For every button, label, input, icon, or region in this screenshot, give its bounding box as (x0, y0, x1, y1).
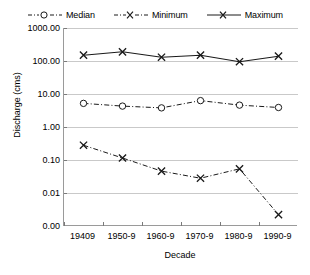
y-axis-tick-labels: 1000.00100.0010.001.000.100.010.00 (8, 28, 60, 226)
data-point-marker (80, 142, 87, 149)
legend-sample-median-icon (27, 9, 63, 21)
data-point-marker (119, 154, 126, 161)
data-point-marker (119, 103, 125, 109)
y-tick-label: 0.00 (12, 222, 60, 231)
y-tick-label: 1.00 (12, 123, 60, 132)
data-point-marker (80, 100, 86, 106)
y-tick-label: 1000.00 (12, 24, 60, 33)
x-tick-label: 1960-9 (139, 231, 183, 241)
legend-label-minimum: Minimum (152, 10, 188, 20)
series-maximum (80, 48, 282, 65)
x-axis-tick-labels: 194091950-91960-91970-91980-91990-9 (63, 231, 297, 245)
x-tick-label: 1990-9 (256, 231, 300, 241)
data-point-marker (158, 105, 164, 111)
legend-sample-maximum-icon (206, 9, 242, 21)
y-tick-label: 0.10 (12, 156, 60, 165)
series-minimum (80, 142, 282, 219)
data-series-layer (64, 28, 298, 226)
series-median (80, 97, 281, 111)
data-point-marker (236, 102, 242, 108)
data-point-marker (197, 97, 203, 103)
legend-label-maximum: Maximum (245, 10, 283, 20)
y-tick-label: 10.00 (12, 90, 60, 99)
legend-item-minimum: Minimum (113, 9, 188, 21)
legend-item-median: Median (27, 9, 95, 21)
data-point-marker (275, 104, 281, 110)
x-tick-label: 19409 (61, 231, 105, 241)
y-tick-label: 100.00 (12, 57, 60, 66)
plot-area (63, 28, 297, 226)
x-tick-label: 1950-9 (100, 231, 144, 241)
chart-legend: Median Minimum Maximum (0, 6, 310, 24)
discharge-by-decade-chart: Median Minimum Maximum Discharge (cms) 1… (0, 0, 310, 275)
x-tick-label: 1970-9 (178, 231, 222, 241)
legend-label-median: Median (66, 10, 95, 20)
data-point-marker (275, 211, 282, 218)
legend-sample-minimum-icon (113, 9, 149, 21)
y-tick-label: 0.01 (12, 189, 60, 198)
x-tick-label: 1980-9 (217, 231, 261, 241)
x-axis-title: Decade (63, 250, 297, 260)
data-point-marker (236, 165, 243, 172)
legend-item-maximum: Maximum (206, 9, 283, 21)
